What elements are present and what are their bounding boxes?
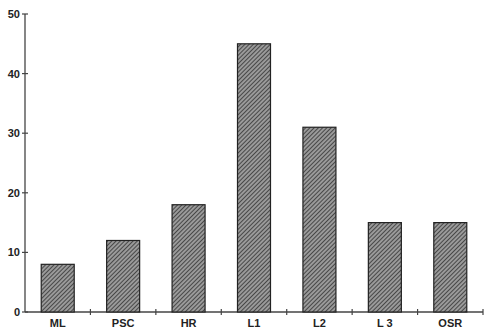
y-tick-label: 0	[14, 306, 20, 318]
y-axis: 01020304050	[8, 8, 28, 318]
x-tick-label: L1	[248, 317, 261, 329]
bar-l3	[368, 223, 401, 312]
bar-l1	[238, 44, 271, 312]
bar-l2	[303, 127, 336, 312]
x-tick-label: L2	[313, 317, 326, 329]
x-tick-label: OSR	[438, 317, 462, 329]
y-tick-label: 20	[8, 187, 20, 199]
x-tick-label: PSC	[112, 317, 135, 329]
x-tick-label: L 3	[377, 317, 393, 329]
y-tick-label: 50	[8, 8, 20, 20]
bar-hr	[172, 205, 205, 312]
bars	[41, 44, 467, 312]
x-tick-label: ML	[50, 317, 66, 329]
bar-psc	[107, 240, 140, 312]
bar-chart: 01020304050 MLPSCHRL1L2L 3OSR	[0, 0, 491, 329]
x-tick-label: HR	[181, 317, 197, 329]
y-tick-label: 30	[8, 127, 20, 139]
bar-ml	[41, 264, 74, 312]
bar-osr	[434, 223, 467, 312]
y-tick-label: 10	[8, 246, 20, 258]
y-tick-label: 40	[8, 68, 20, 80]
